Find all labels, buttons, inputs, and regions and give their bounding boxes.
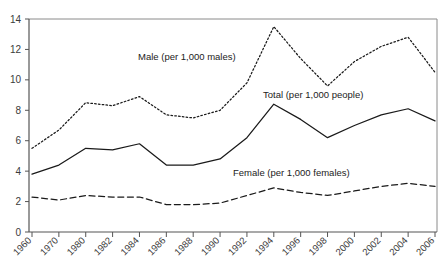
x-tick-label: 1982 (91, 235, 114, 258)
x-tick-label: 2004 (387, 235, 410, 258)
series-line-female (32, 183, 435, 204)
y-axis: 02468101214 (10, 14, 29, 238)
x-tick-label: 1998 (306, 235, 329, 258)
y-tick-label: 2 (15, 196, 21, 207)
series-annotation: Female (per 1,000 females) (233, 167, 350, 178)
x-tick-label: 1990 (199, 235, 222, 258)
x-tick-label: 2002 (360, 235, 383, 258)
chart-canvas: 02468101214 1960197019801982198419861988… (0, 0, 444, 275)
y-tick-label: 8 (15, 105, 21, 116)
y-tick-label: 0 (15, 227, 21, 238)
x-tick-label: 1988 (172, 235, 195, 258)
x-axis: 1960197019801982198419861988199019921994… (11, 232, 437, 257)
series-annotation: Total (per 1,000 people) (263, 89, 363, 100)
x-tick-label: 1984 (118, 235, 141, 258)
x-tick-label: 1970 (38, 235, 61, 258)
y-tick-label: 14 (10, 14, 22, 25)
x-tick-labels: 1960197019801982198419861988199019921994… (11, 235, 437, 258)
x-tick-label: 1994 (252, 235, 275, 258)
series-line-male (32, 27, 435, 149)
y-tick-labels: 02468101214 (10, 14, 22, 238)
x-tick-label: 2000 (333, 235, 356, 258)
series-annotations: Male (per 1,000 males)Total (per 1,000 p… (138, 51, 363, 178)
x-tick-label: 1992 (226, 235, 249, 258)
series-line-total (32, 104, 435, 174)
x-tick-label: 1960 (11, 235, 34, 258)
x-tick-label: 2006 (414, 235, 437, 258)
y-tick-label: 6 (15, 135, 21, 146)
y-tick-label: 10 (10, 74, 22, 85)
x-tick-label: 1996 (279, 235, 302, 258)
series-annotation: Male (per 1,000 males) (138, 51, 236, 62)
x-tick-label: 1980 (64, 235, 87, 258)
y-tick-label: 12 (10, 44, 22, 55)
y-tick-label: 4 (15, 166, 21, 177)
line-chart: 02468101214 1960197019801982198419861988… (0, 0, 444, 275)
x-tick-label: 1986 (145, 235, 168, 258)
